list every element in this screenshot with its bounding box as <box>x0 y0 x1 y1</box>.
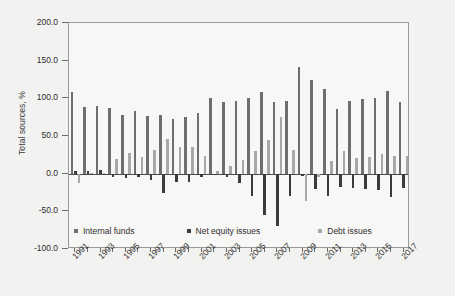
bar <box>247 98 250 174</box>
bar <box>115 159 118 174</box>
chart-legend: Internal fundsNet equity issuesDebt issu… <box>74 226 372 236</box>
bar <box>348 101 351 174</box>
bar <box>327 174 330 196</box>
bar <box>285 101 288 174</box>
bar <box>175 174 178 183</box>
bar <box>393 156 396 174</box>
legend-item[interactable]: Debt issues <box>318 226 371 236</box>
y-axis-tick-label: -50.0 <box>0 205 58 215</box>
bar <box>125 174 128 178</box>
bar <box>390 174 393 197</box>
y-axis-tick-label: 50.0 <box>0 130 58 140</box>
y-axis-tick-label: 200.0 <box>0 17 58 27</box>
bar <box>191 147 194 174</box>
bar <box>339 174 342 188</box>
bar <box>226 174 229 177</box>
bar <box>103 173 106 174</box>
bar <box>242 160 245 173</box>
bar <box>254 151 257 173</box>
bar <box>343 151 346 174</box>
bar <box>121 115 124 174</box>
bar <box>146 116 149 174</box>
y-axis-tick-label: 150.0 <box>0 55 58 65</box>
bar <box>292 150 295 174</box>
legend-label: Net equity issues <box>196 226 261 236</box>
bar <box>276 174 279 226</box>
bar <box>83 107 86 174</box>
bar <box>108 108 111 174</box>
bar <box>200 174 203 177</box>
bar <box>71 92 74 173</box>
bar <box>229 166 232 174</box>
y-axis-title: Total sources, % <box>17 63 27 183</box>
bar <box>364 174 367 189</box>
bar <box>112 174 115 178</box>
bar <box>99 170 102 174</box>
bar <box>406 156 409 174</box>
bar <box>368 157 371 173</box>
legend-label: Internal funds <box>83 226 135 236</box>
bar <box>216 171 219 173</box>
bar <box>330 161 333 173</box>
bar <box>222 102 225 174</box>
bar <box>314 174 317 189</box>
bar <box>184 117 187 174</box>
bar <box>361 99 364 173</box>
bar <box>267 140 270 174</box>
bar <box>355 158 358 173</box>
bar <box>310 80 313 174</box>
bar <box>209 98 212 174</box>
legend-item[interactable]: Net equity issues <box>187 226 261 236</box>
y-axis-tick-label: -100.0 <box>0 243 58 253</box>
bar <box>374 98 377 174</box>
chart-figure: Total sources, % 200.0150.0100.050.00.0-… <box>0 0 455 296</box>
bar <box>386 91 389 174</box>
y-axis-tick-label: 100.0 <box>0 92 58 102</box>
bar <box>381 154 384 174</box>
bar <box>74 171 77 174</box>
bar <box>280 117 283 174</box>
bar <box>153 150 156 173</box>
bar <box>162 174 165 194</box>
bar <box>134 111 137 174</box>
bar <box>251 174 254 197</box>
legend-swatch-icon <box>318 229 322 233</box>
bar <box>305 174 308 201</box>
bar <box>273 102 276 173</box>
bar <box>87 171 90 174</box>
bar <box>263 174 266 215</box>
bar <box>172 119 175 174</box>
bar <box>260 92 263 174</box>
bar <box>150 174 153 181</box>
bar <box>301 174 304 176</box>
bar <box>352 174 355 188</box>
legend-swatch-icon <box>187 229 191 233</box>
bar <box>188 174 191 182</box>
bar <box>317 174 320 177</box>
bar <box>90 173 93 174</box>
bar <box>238 174 241 183</box>
bar <box>137 174 140 177</box>
plot-area <box>68 22 409 248</box>
bar <box>399 102 402 174</box>
bar <box>141 157 144 174</box>
bar <box>402 174 405 188</box>
bar <box>323 89 326 173</box>
bar <box>289 174 292 196</box>
legend-label: Debt issues <box>327 226 371 236</box>
bar-group-container <box>69 23 408 247</box>
bar <box>96 106 99 173</box>
bar <box>159 115 162 174</box>
bar <box>377 174 380 190</box>
legend-swatch-icon <box>74 229 78 233</box>
bar <box>213 174 216 175</box>
bar <box>166 139 169 174</box>
y-axis-tick <box>62 248 68 249</box>
y-axis-tick-label: 0.0 <box>0 168 58 178</box>
bar <box>298 67 301 174</box>
legend-item[interactable]: Internal funds <box>74 226 135 236</box>
bar <box>128 153 131 174</box>
bar <box>235 101 238 174</box>
bar <box>78 174 81 183</box>
bar <box>179 147 182 174</box>
